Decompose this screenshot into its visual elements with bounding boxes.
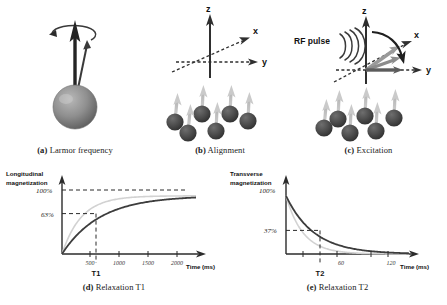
panel-a-larmor-frequency [0, 0, 150, 150]
spin-arrow [329, 90, 346, 128]
t1-ylabel-line1: Longitudinal [6, 170, 43, 177]
axis-x-label: x [414, 30, 419, 40]
t1-curve-faint [62, 196, 196, 254]
spin-arrow [166, 93, 183, 131]
spin-cluster [315, 87, 402, 142]
panel-a-caption-text: Larmor frequency [50, 145, 113, 155]
t2-tick-120: 120 [387, 260, 396, 266]
axis-x-label: x [253, 26, 258, 36]
t1-ylabel-line2: magnetization [6, 179, 48, 186]
t2-decay-plot: Transverse magnetization 100% 37% [228, 166, 447, 278]
panel-e-caption: (e) Relaxation T2 [228, 282, 447, 292]
t1-tick-500: 500 [86, 260, 95, 266]
t2-marker-label: T2 [316, 269, 325, 278]
panel-e-relaxation-t2-chart: Transverse magnetization 100% 37% [228, 166, 447, 278]
t1-curves [62, 196, 196, 254]
panel-b-alignment: z y x [150, 0, 290, 150]
panel-e-caption-text: Relaxation T2 [319, 282, 369, 292]
axis-x-arrowhead [401, 41, 412, 49]
axis-y-arrowhead [248, 59, 258, 66]
t1-curve-main [62, 198, 196, 254]
panel-e-caption-tag: (e) [307, 282, 317, 292]
panel-d-caption-text: Relaxation T1 [96, 282, 146, 292]
axis-x-line [172, 41, 242, 72]
axis-z-label: z [206, 4, 211, 14]
panel-c-caption-text: Excitation [357, 145, 393, 155]
t2-xlabel: Time (ms) [400, 263, 429, 270]
axis-y-label: y [426, 65, 431, 75]
rf-wave-icon [340, 28, 365, 64]
t2-label-100: 100% [259, 187, 276, 195]
spin-arrow [207, 102, 224, 140]
t1-label-100: 100% [36, 187, 53, 195]
nucleus-sphere [53, 85, 97, 129]
rf-pulse-label: RF pulse [294, 36, 330, 46]
excitation-diagram: RF pulse z y x [290, 0, 447, 150]
t2-ylabel-line1: Transverse [230, 170, 263, 177]
axis-y-label: y [262, 57, 267, 67]
magnetization-vectors [366, 46, 403, 74]
alignment-diagram: z y x [150, 0, 290, 150]
panel-b-caption: (b) Alignment [150, 145, 290, 155]
panel-b-caption-text: Alignment [208, 145, 245, 155]
t2-curves [286, 196, 409, 254]
panel-a-caption-tag: (a) [37, 145, 47, 155]
t2-tick-60: 60 [338, 260, 344, 266]
panel-d-relaxation-t1-chart: Longitudinal magnetization 100% 63% [0, 166, 228, 278]
panel-d-caption-tag: (d) [83, 282, 94, 292]
t1-tick-1500: 1500 [142, 260, 154, 266]
mri-physics-figure: (a) Larmor frequency z [0, 0, 447, 305]
spin-arrow [356, 87, 373, 125]
panel-d-caption: (d) Relaxation T1 [0, 282, 228, 292]
spin-arrow [221, 85, 238, 123]
spin-arrow [385, 89, 402, 127]
larmor-precession-diagram [0, 0, 150, 150]
t1-marker-label: T1 [92, 269, 101, 278]
t1-recovery-plot: Longitudinal magnetization 100% 63% [0, 166, 228, 278]
t1-tick-2000: 2000 [171, 260, 183, 266]
t1-xlabel: Time (ms) [186, 263, 215, 270]
panel-c-caption-tag: (c) [345, 145, 355, 155]
sphere-highlight [59, 94, 73, 104]
spin-arrow [239, 92, 256, 130]
spin-arrow [193, 85, 210, 123]
t2-ylabel-line2: magnetization [230, 179, 272, 186]
panel-c-excitation: RF pulse z y x [290, 0, 447, 150]
t1-label-63: 63% [41, 211, 54, 219]
panel-c-caption: (c) Excitation [290, 145, 447, 155]
t2-curve-main [286, 196, 409, 253]
axis-x-arrowhead [239, 37, 250, 45]
panel-b-caption-tag: (b) [195, 145, 206, 155]
panel-a-caption: (a) Larmor frequency [0, 145, 150, 155]
spin-cluster [166, 85, 256, 142]
precession-vector-head [83, 40, 91, 50]
t2-label-37: 37% [263, 227, 277, 235]
t1-tick-1000: 1000 [113, 260, 125, 266]
axis-z-label: z [362, 6, 367, 16]
